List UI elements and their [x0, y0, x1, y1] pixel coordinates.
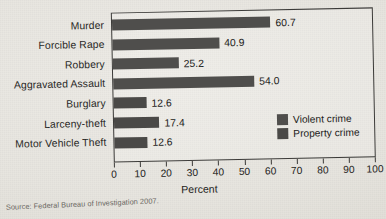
x-axis-tick-label: 100	[366, 163, 383, 174]
x-axis-tick	[296, 159, 297, 164]
bar-value-label: 17.4	[164, 117, 184, 128]
x-axis-tick	[349, 158, 350, 163]
bar-value-label: 12.6	[151, 97, 171, 108]
x-axis-tick	[192, 161, 193, 166]
x-axis-tick	[270, 159, 271, 164]
chart-figure: MurderForcible RapeRobberyAggravated Ass…	[0, 0, 386, 219]
source-note: Source: Federal Bureau of Investigation …	[6, 196, 159, 212]
category-label-aggravated-assault: Aggravated Assault	[14, 78, 106, 91]
x-axis-tick-label: 80	[317, 164, 329, 175]
x-axis-title: Percent	[181, 183, 218, 196]
x-axis-tick-label: 20	[160, 167, 172, 178]
legend-item-violent-crime: Violent crime	[277, 112, 377, 125]
bar-value-label: 25.2	[184, 57, 204, 68]
bar-larceny-theft	[114, 117, 160, 129]
x-axis-tick-label: 30	[187, 167, 199, 178]
x-axis-tick	[375, 157, 376, 162]
bar-value-label: 54.0	[259, 76, 279, 87]
x-axis-tick	[218, 160, 219, 165]
x-axis-tick-label: 60	[265, 165, 277, 176]
x-axis-tick	[323, 158, 324, 163]
x-axis-tick-label: 50	[239, 166, 251, 177]
x-axis-tick-label: 10	[134, 168, 146, 179]
bar-murder	[112, 16, 271, 30]
bar-value-label: 60.7	[275, 16, 295, 27]
legend-swatch-icon-violent	[277, 114, 288, 125]
bar-forcible-rape	[112, 37, 219, 50]
legend-label-violent: Violent crime	[293, 113, 352, 125]
category-axis-labels: MurderForcible RapeRobberyAggravated Ass…	[0, 13, 111, 155]
bar-burglary	[114, 97, 147, 109]
bar-motor-vehicle-theft	[114, 137, 147, 149]
x-axis-tick	[166, 162, 167, 167]
bar-robbery	[113, 57, 179, 69]
x-axis: 0102030405060708090100	[114, 157, 377, 192]
legend-item-property-crime: Property crime	[277, 126, 377, 139]
x-axis-tick	[114, 163, 115, 168]
bar-aggravated-assault	[113, 76, 254, 90]
category-label-robbery: Robbery	[65, 58, 105, 70]
chart-legend: Violent crime Property crime	[277, 112, 378, 142]
legend-swatch-icon-property	[277, 128, 288, 139]
category-label-larceny-theft: Larceny-theft	[44, 117, 106, 129]
legend-label-property: Property crime	[293, 127, 359, 139]
category-label-murder: Murder	[70, 19, 104, 31]
x-axis-tick-label: 90	[343, 164, 355, 175]
x-axis-tick-label: 70	[291, 165, 303, 176]
bar-value-label: 12.6	[152, 137, 172, 148]
category-label-burglary: Burglary	[66, 98, 106, 110]
x-axis-tick	[244, 160, 245, 165]
bar-value-label: 40.9	[224, 37, 244, 48]
x-axis-tick-label: 0	[111, 169, 117, 180]
category-label-motor-vehicle-theft: Motor Vehicle Theft	[15, 137, 106, 150]
x-axis-tick-label: 40	[213, 166, 225, 177]
category-label-forcible-rape: Forcible Rape	[38, 39, 104, 51]
x-axis-tick	[140, 162, 141, 167]
